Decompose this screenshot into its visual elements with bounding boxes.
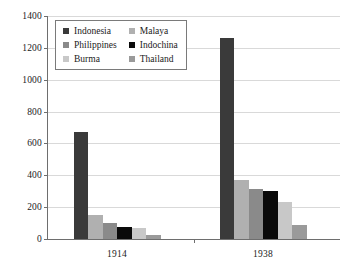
legend-swatch-indochina-icon (129, 42, 135, 48)
legend-item-malaya[interactable]: Malaya (129, 25, 178, 37)
bar-group-1938 (220, 16, 307, 239)
legend-swatch-thailand-icon (129, 56, 135, 62)
y-tick-label-800: 800 (27, 107, 42, 117)
bar-chart: 0200400600800100012001400 19141938 Indon… (0, 0, 357, 273)
bar-burma-1938 (278, 202, 293, 239)
legend-label-indonesia: Indonesia (74, 25, 111, 37)
legend-label-burma: Burma (74, 53, 100, 65)
y-tick-label-0: 0 (37, 234, 42, 244)
y-tick-label-600: 600 (27, 138, 42, 148)
x-tick-label-1938: 1938 (253, 249, 273, 259)
bar-philippines-1938 (249, 189, 264, 239)
x-tick-label-1914: 1914 (107, 249, 127, 259)
y-tick-label-1400: 1400 (22, 11, 42, 21)
bar-thailand-1914 (146, 235, 161, 239)
bar-malaya-1938 (234, 180, 249, 239)
legend-swatch-burma-icon (63, 56, 69, 62)
y-tick-mark-0 (44, 239, 48, 240)
legend-item-indonesia[interactable]: Indonesia (63, 25, 117, 37)
legend-item-indochina[interactable]: Indochina (129, 39, 178, 51)
y-tick-label-400: 400 (27, 170, 42, 180)
legend-swatch-indonesia-icon (63, 28, 69, 34)
legend-swatch-philippines-icon (63, 42, 69, 48)
y-tick-label-1000: 1000 (22, 75, 42, 85)
legend-item-thailand[interactable]: Thailand (129, 53, 178, 65)
x-tick-mark-1 (194, 239, 195, 243)
bar-philippines-1914 (103, 223, 118, 239)
chart-legend: IndonesiaMalayaPhilippinesIndochinaBurma… (55, 20, 187, 70)
legend-label-philippines: Philippines (74, 39, 117, 51)
bar-indonesia-1914 (74, 132, 89, 239)
bar-indonesia-1938 (220, 38, 235, 239)
legend-label-indochina: Indochina (140, 39, 178, 51)
bar-thailand-1938 (292, 225, 307, 239)
y-tick-label-1200: 1200 (22, 43, 42, 53)
legend-item-burma[interactable]: Burma (63, 53, 117, 65)
legend-label-thailand: Thailand (140, 53, 174, 65)
legend-label-malaya: Malaya (140, 25, 169, 37)
bar-indochina-1938 (263, 191, 278, 239)
y-tick-label-200: 200 (27, 202, 42, 212)
legend-swatch-malaya-icon (129, 28, 135, 34)
bar-malaya-1914 (88, 215, 103, 239)
legend-item-philippines[interactable]: Philippines (63, 39, 117, 51)
bar-indochina-1914 (117, 227, 132, 239)
bar-burma-1914 (132, 228, 147, 239)
